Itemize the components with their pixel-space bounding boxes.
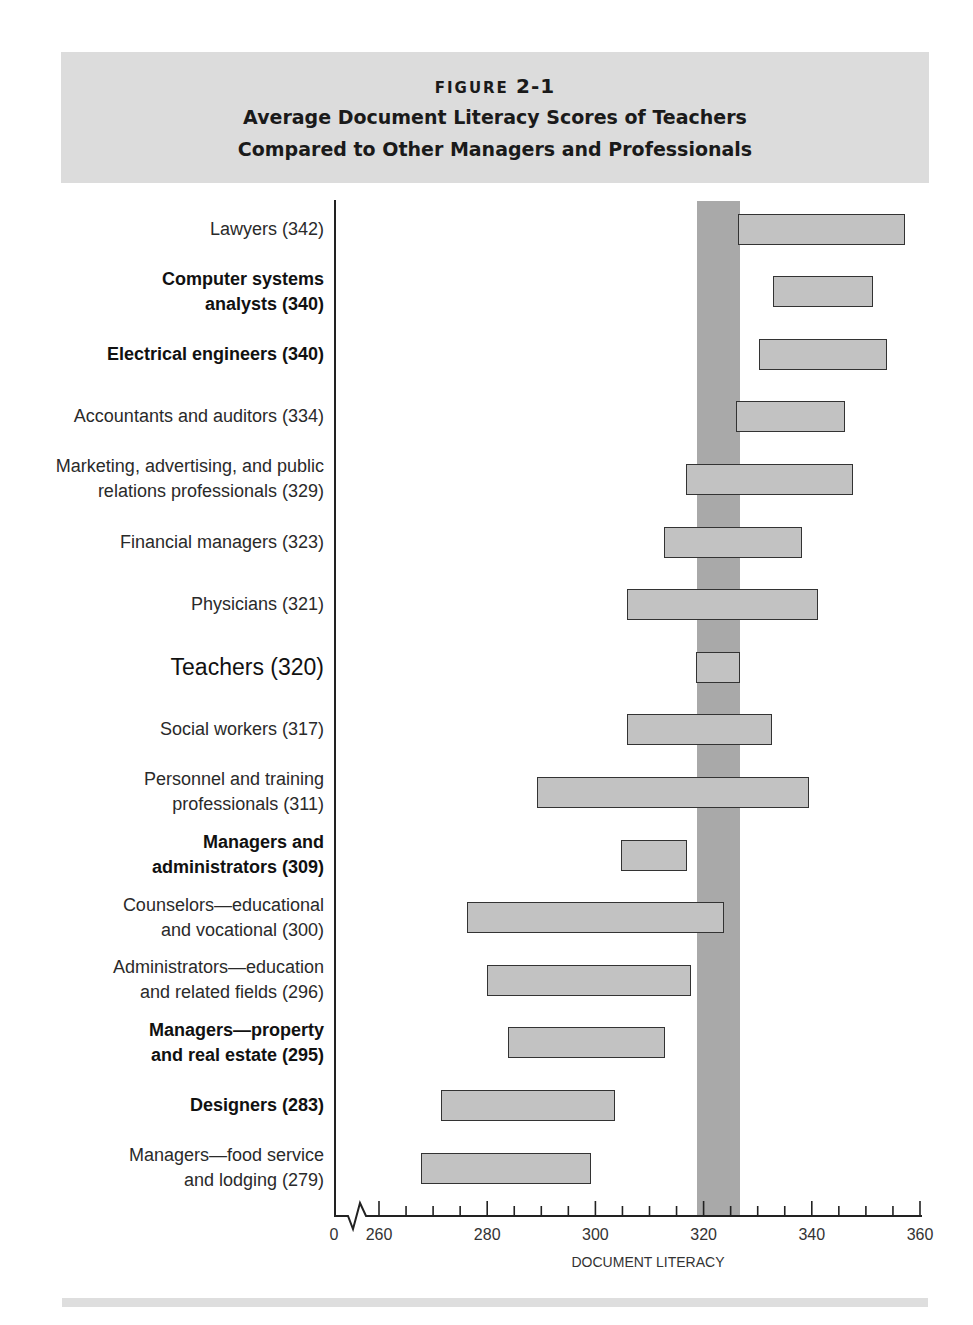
x-tick-label: 260 (366, 1226, 393, 1244)
range-bar (773, 276, 873, 307)
category-label: Counselors—educationaland vocational (30… (123, 893, 324, 943)
x-tick-label: 340 (798, 1226, 825, 1244)
category-label: Managers—propertyand real estate (295) (149, 1018, 324, 1068)
label-line: Financial managers (323) (120, 530, 324, 555)
label-line: and real estate (295) (149, 1043, 324, 1068)
label-line: Physicians (321) (191, 592, 324, 617)
label-line: Managers and (152, 830, 324, 855)
label-line: Counselors—educational (123, 893, 324, 918)
category-label: Managers—food serviceand lodging (279) (129, 1143, 324, 1193)
label-line: Marketing, advertising, and public (56, 454, 324, 479)
category-label: Physicians (321) (191, 592, 324, 617)
category-label: Financial managers (323) (120, 530, 324, 555)
range-bar (441, 1090, 615, 1121)
category-label: Electrical engineers (340) (107, 342, 324, 367)
x-tick-label: 300 (582, 1226, 609, 1244)
label-line: Managers—food service (129, 1143, 324, 1168)
label-line: Accountants and auditors (334) (74, 404, 324, 429)
label-line: Electrical engineers (340) (107, 342, 324, 367)
range-bar (738, 214, 905, 245)
category-label: Personnel and trainingprofessionals (311… (144, 767, 324, 817)
x-axis (0, 0, 973, 1325)
range-bar (736, 401, 845, 432)
range-bar (759, 339, 887, 370)
range-bar (508, 1027, 665, 1058)
range-bar (537, 777, 809, 808)
category-label: Accountants and auditors (334) (74, 404, 324, 429)
y-axis-line (334, 200, 336, 1217)
bottom-rule (62, 1298, 928, 1307)
label-line: professionals (311) (144, 792, 324, 817)
label-line: relations professionals (329) (56, 479, 324, 504)
category-label: Marketing, advertising, and publicrelati… (56, 454, 324, 504)
range-bar (664, 527, 802, 558)
label-line: Lawyers (342) (210, 217, 324, 242)
range-bar (627, 589, 818, 620)
category-label: Administrators—educationand related fiel… (113, 955, 324, 1005)
range-bar-chart: Lawyers (342)Computer systemsanalysts (3… (0, 0, 973, 1325)
category-label: Teachers (320) (171, 655, 324, 680)
range-bar (686, 464, 853, 495)
x-tick-label: 360 (907, 1226, 934, 1244)
range-bar (467, 902, 724, 933)
label-line: Computer systems (162, 267, 324, 292)
x-tick-label: 280 (474, 1226, 501, 1244)
teacher-reference-band (697, 201, 740, 1216)
label-line: and vocational (300) (123, 918, 324, 943)
label-line: Social workers (317) (160, 717, 324, 742)
category-label: Social workers (317) (160, 717, 324, 742)
category-label: Designers (283) (190, 1093, 324, 1118)
range-bar (627, 714, 772, 745)
x-tick-label: 0 (330, 1226, 339, 1244)
x-axis-label: DOCUMENT LITERACY (572, 1254, 725, 1270)
label-line: and lodging (279) (129, 1168, 324, 1193)
category-label: Lawyers (342) (210, 217, 324, 242)
label-line: and related fields (296) (113, 980, 324, 1005)
label-line: Designers (283) (190, 1093, 324, 1118)
range-bar (487, 965, 691, 996)
label-line: Administrators—education (113, 955, 324, 980)
category-label: Managers andadministrators (309) (152, 830, 324, 880)
label-line: Managers—property (149, 1018, 324, 1043)
label-line: administrators (309) (152, 855, 324, 880)
category-label: Computer systemsanalysts (340) (162, 267, 324, 317)
label-line: Teachers (320) (171, 655, 324, 680)
label-line: Personnel and training (144, 767, 324, 792)
range-bar (621, 840, 687, 871)
label-line: analysts (340) (162, 292, 324, 317)
range-bar (421, 1153, 591, 1184)
x-tick-label: 320 (690, 1226, 717, 1244)
range-bar (696, 652, 740, 683)
